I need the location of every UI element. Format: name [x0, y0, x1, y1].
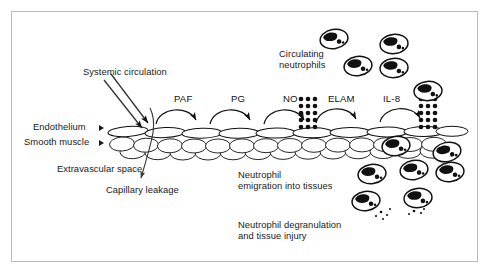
label-neutrophil-emigration-line2: emigration into tissues [238, 180, 332, 191]
mediator-label-no: NO [283, 93, 298, 104]
neutrophil-degranulating [403, 187, 433, 209]
label-capillary-leakage: Capillary leakage [106, 184, 179, 195]
figure-page: Systemic circulation Endothelium Smooth … [0, 0, 493, 277]
mediator-label-il8: IL-8 [383, 93, 400, 104]
label-neutrophil-emigration-line1: Neutrophil [238, 169, 281, 180]
mediator-label-paf: PAF [174, 93, 192, 104]
systemic-arrow-2 [104, 80, 142, 128]
endothelium-layer [108, 125, 468, 139]
circulating-neutrophils [319, 27, 443, 101]
arc-no [264, 110, 304, 124]
label-endothelium: Endothelium [33, 121, 86, 132]
neutrophil [399, 158, 430, 182]
label-systemic-circulation: Systemic circulation [83, 66, 167, 77]
neutrophil-adherent [413, 80, 442, 101]
arc-paf [156, 110, 196, 124]
label-circulating-neutrophils-line2: neutrophils [279, 59, 325, 70]
label-neutrophil-degranulation-line2: and tissue injury [238, 230, 307, 241]
arc-pg [210, 110, 250, 124]
il8-dot-cluster [419, 97, 438, 130]
label-smooth-muscle: Smooth muscle [24, 136, 89, 147]
neutrophil [357, 163, 387, 186]
label-neutrophil-degranulation-line1: Neutrophil degranulation [238, 219, 341, 230]
degranulating-neutrophils [351, 187, 433, 220]
label-extravascular-space: Extravascular space [57, 163, 142, 174]
neutrophil [343, 55, 373, 78]
granule-spray [408, 208, 425, 215]
systemic-circulation-arrows [104, 74, 148, 128]
neutrophil-degranulating [351, 190, 381, 213]
endothelium-pointer-icon [99, 125, 104, 131]
mediator-arc-arrows [156, 109, 420, 124]
arc-elam [316, 109, 356, 123]
systemic-arrow-1 [111, 74, 148, 123]
smooth-muscle-pointer-icon [99, 140, 104, 146]
arc-il8 [380, 109, 420, 122]
neutrophil [379, 57, 409, 79]
elam-dot-cluster [299, 97, 318, 130]
label-circulating-neutrophils-line1: Circulating [279, 48, 324, 59]
neutrophil [435, 161, 465, 184]
mediator-label-elam: ELAM [328, 93, 355, 104]
granule-spray [375, 208, 391, 220]
mediator-label-pg: PG [231, 93, 245, 104]
neutrophil [379, 33, 409, 55]
